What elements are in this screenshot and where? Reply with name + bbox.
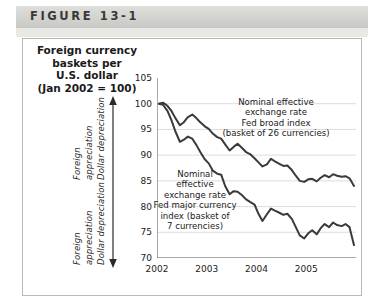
figure-banner-underline (16, 28, 368, 37)
plot-area: 707580859095100105 2002200320042005 Nomi… (157, 78, 356, 258)
y-tick-label-105: 105 (135, 73, 152, 83)
lower-foreign-appreciation-line2: appreciation (84, 211, 94, 265)
chart-title-line-1: Foreign currency (28, 44, 146, 57)
annot-major-line-3: exchange rate (131, 190, 259, 200)
chart-title: Foreign currency baskets per U.S. dollar… (28, 44, 146, 94)
figure-root: FIGURE 13-1 Foreign currency baskets per… (0, 0, 384, 306)
lower-foreign-appreciation-line1: Foreign (72, 232, 82, 265)
x-tick-label-2005: 2005 (295, 264, 318, 274)
lower-dollar-depreciation-line: Dollar depreciation (96, 182, 106, 265)
chart-title-line-2: baskets per (28, 57, 146, 70)
annot-broad-line-4: (basket of 26 currencies) (201, 128, 351, 138)
annot-major-line-6: 7 currencies) (131, 221, 259, 231)
annot-major-line-2: effective (131, 179, 259, 189)
annot-major-line-1: Nominal (131, 169, 259, 179)
annotation-fed-major-currency-index: Nominal effective exchange rate Fed majo… (131, 169, 259, 231)
chart-title-line-3: U.S. dollar (28, 69, 146, 82)
annot-broad-line-3: Fed broad index (201, 118, 351, 128)
down-arrow-icon (107, 182, 119, 268)
chart-title-line-4: (Jan 2002 = 100) (28, 82, 146, 95)
y-tick-label-70: 70 (141, 253, 152, 263)
y-tick-label-90: 90 (141, 150, 152, 160)
annotation-fed-broad-index: Nominal effective exchange rate Fed broa… (201, 97, 351, 139)
up-arrow-icon (107, 96, 119, 182)
x-tick-label-2004: 2004 (245, 264, 268, 274)
annot-broad-line-2: exchange rate (201, 107, 351, 117)
x-tick-label-2002: 2002 (146, 264, 169, 274)
x-tick-label-2003: 2003 (195, 264, 218, 274)
upper-foreign-appreciation-line1: Foreign (72, 147, 82, 180)
annot-broad-line-1: Nominal effective (201, 97, 351, 107)
annot-major-line-5: index (basket of (131, 211, 259, 221)
figure-number-label: FIGURE 13-1 (30, 9, 139, 23)
annot-major-line-4: Fed major currency (131, 200, 259, 210)
upper-dollar-depreciation-line: Dollar depreciation (96, 97, 106, 180)
upper-foreign-appreciation-line2: appreciation (84, 126, 94, 180)
y-tick-label-95: 95 (141, 124, 152, 134)
y-tick-label-100: 100 (135, 99, 152, 109)
